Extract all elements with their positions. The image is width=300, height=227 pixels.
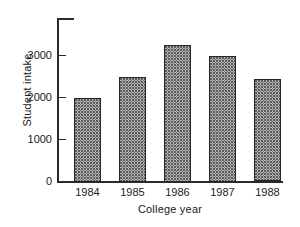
y-axis-tick [57, 139, 66, 141]
y-axis-top-cap [57, 18, 74, 20]
y-axis-tick-label-text: 1000 [18, 134, 52, 145]
y-axis-tick-label-text: 3000 [18, 50, 52, 61]
y-axis-tick [57, 181, 66, 183]
y-axis-line [57, 18, 59, 182]
x-axis-title: College year [57, 203, 283, 215]
x-axis-tick-label: 1986 [157, 186, 198, 198]
y-axis-tick [57, 55, 66, 57]
bar-1986 [164, 45, 191, 182]
y-axis-tick-label: 3000 [16, 50, 52, 61]
y-axis-tick-label: 0 [16, 176, 52, 187]
y-axis-tick-label-text: 0 [18, 176, 52, 187]
x-axis-tick-label: 1984 [67, 186, 108, 198]
bar-1984 [74, 98, 101, 182]
y-axis-title: Student intake [18, 10, 36, 170]
bar-1985 [119, 77, 146, 182]
y-axis-tick-label-text: 2000 [18, 92, 52, 103]
bar-1988 [254, 79, 281, 182]
y-axis-tick [57, 97, 66, 99]
y-axis-tick-label: 2000 [16, 92, 52, 103]
x-axis-tick-label: 1988 [247, 186, 288, 198]
x-axis-tick-label: 1985 [112, 186, 153, 198]
x-axis-tick-label: 1987 [202, 186, 243, 198]
bar-chart-figure: Student intake 0100020003000 19841985198… [0, 0, 300, 227]
bar-1987 [209, 56, 236, 182]
y-axis-tick-label: 1000 [16, 134, 52, 145]
